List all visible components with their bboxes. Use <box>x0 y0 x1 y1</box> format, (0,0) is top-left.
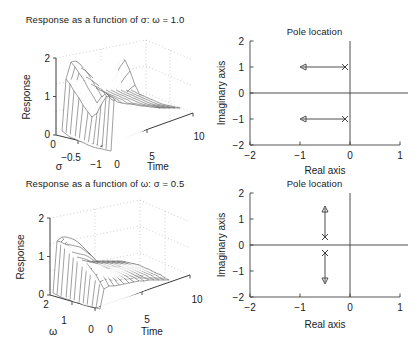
pole-trajectory-arrow-upper-omega <box>322 206 328 237</box>
z-tick-2-sigma: 2 <box>44 53 50 64</box>
panel-surface-omega: Response as a function of ω: σ = 0.5 2 <box>0 176 210 352</box>
figure-canvas: Response as a function of σ: ω = 1.0 <box>0 0 419 352</box>
poles-omega-svg: 2 1 0 −1 −2 −2 −1 0 1 Real axis Imaginar… <box>210 176 419 352</box>
imaginary-axis-label-omega: Imaginary axis <box>216 213 227 277</box>
surface-mesh-sigma <box>62 60 180 151</box>
x-tick-one-sigma: −1 <box>90 159 102 170</box>
surface-mesh-omega <box>53 237 169 309</box>
y-tick-0-sigma: 0 <box>114 159 120 170</box>
z-axis-label-sigma: Response <box>21 74 32 119</box>
real-axis-label-omega: Real axis <box>304 319 345 330</box>
z-axis-sigma <box>53 58 56 135</box>
panel-poles-omega: Pole location 2 1 0 −1 −2 −2 −1 <box>210 176 419 352</box>
panel-poles-sigma: Pole location 2 1 <box>210 0 419 176</box>
surface-omega-svg: 2 1 0 Response 2 1 0 ω 0 5 10 Time <box>0 176 210 352</box>
y-tick-0-omega: 0 <box>107 324 113 335</box>
x-axis-label-omega: ω <box>49 325 57 337</box>
x-tick-0-sigma: 0 <box>50 139 56 150</box>
panel-surface-sigma: Response as a function of σ: ω = 1.0 <box>0 0 210 176</box>
x-tick-2-omega: 2 <box>43 299 49 310</box>
poles-sigma-svg: 2 1 0 −1 −2 −2 −1 0 1 Real axis Imaginar… <box>210 0 419 176</box>
real-tick-0-omega: 0 <box>347 302 353 313</box>
x-tick-0-omega: 0 <box>88 324 94 335</box>
z-axis-label-omega: Response <box>15 234 26 279</box>
imag-tick-2-omega: 2 <box>238 188 244 199</box>
x-tick-half-sigma: −0.5 <box>61 152 81 163</box>
imag-tick-neg2-omega: −2 <box>233 292 245 303</box>
real-tick-1-sigma: 1 <box>397 150 403 161</box>
y-axis-label-omega: Time <box>141 326 163 337</box>
real-tick-1-omega: 1 <box>397 302 403 313</box>
imag-tick-2-sigma: 2 <box>238 36 244 47</box>
surface-sigma-svg: 2 1 0 Response 0 −0.5 −1 σ 0 5 10 Time <box>0 0 210 176</box>
imaginary-axis-label-sigma: Imaginary axis <box>216 61 227 125</box>
y-axis-label-sigma: Time <box>147 161 169 172</box>
z-tick-1-sigma: 1 <box>44 91 50 102</box>
real-axis-label-sigma: Real axis <box>304 165 345 176</box>
pole-trajectory-arrow-lower-omega <box>322 253 328 284</box>
x-tick-1-omega: 1 <box>61 315 67 326</box>
imag-tick-neg2-sigma: −2 <box>233 140 245 151</box>
imag-tick-0-omega: 0 <box>238 240 244 251</box>
real-tick-0-sigma: 0 <box>347 150 353 161</box>
z-tick-2-omega: 2 <box>38 213 44 224</box>
y-tick-10-omega: 10 <box>191 294 203 305</box>
y-tick-5-omega: 5 <box>144 314 150 325</box>
real-tick-neg1-sigma: −1 <box>294 150 306 161</box>
real-tick-neg2-sigma: −2 <box>244 150 256 161</box>
y-tick-10-sigma: 10 <box>193 131 205 142</box>
real-tick-neg2-omega: −2 <box>244 302 256 313</box>
imag-tick-1-sigma: 1 <box>238 62 244 73</box>
imag-tick-neg1-sigma: −1 <box>233 114 245 125</box>
z-axis-omega <box>47 218 50 295</box>
imag-tick-1-omega: 1 <box>238 214 244 225</box>
real-tick-neg1-omega: −1 <box>294 302 306 313</box>
imag-tick-0-sigma: 0 <box>238 88 244 99</box>
pole-trajectory-arrow-lower-sigma <box>300 116 345 122</box>
x-axis-label-sigma: σ <box>56 160 63 172</box>
pole-trajectory-arrow-upper-sigma <box>300 64 345 70</box>
imag-tick-neg1-omega: −1 <box>233 266 245 277</box>
z-tick-1-omega: 1 <box>38 251 44 262</box>
